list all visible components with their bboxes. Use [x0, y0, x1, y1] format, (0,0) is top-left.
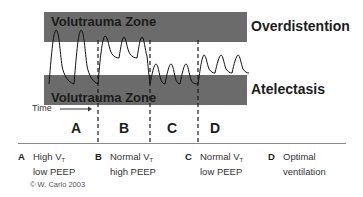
waveform-trace — [49, 30, 249, 84]
legend-text-c: Normal VTlow PEEP — [200, 151, 243, 178]
ventilation-diagram: Volutrauma Zone Volutrauma Zone Overdist… — [0, 0, 363, 197]
time-arrow-icon — [60, 105, 92, 113]
divider-rule — [18, 143, 346, 144]
legend-key-a: A — [18, 151, 25, 163]
legend-key-c: C — [185, 151, 192, 163]
segment-b-trace — [98, 36, 150, 84]
legend-key-b: B — [95, 151, 102, 163]
segment-label-a: A — [71, 120, 81, 136]
time-label: Time — [32, 103, 52, 113]
segment-label-b: B — [119, 120, 129, 136]
legend-key-d: D — [268, 151, 275, 163]
segment-label-d: D — [210, 120, 220, 136]
legend-text-a: High VTlow PEEP — [33, 151, 75, 178]
segment-d-trace — [198, 55, 249, 84]
copyright-text: © W. Carlo 2003 — [30, 180, 85, 189]
segment-c-trace — [150, 64, 198, 84]
legend-text-b: Normal VThigh PEEP — [110, 151, 156, 178]
legend-text-d: Optimalventilation — [283, 151, 326, 178]
segment-label-c: C — [167, 120, 177, 136]
segment-a-trace — [49, 30, 98, 84]
